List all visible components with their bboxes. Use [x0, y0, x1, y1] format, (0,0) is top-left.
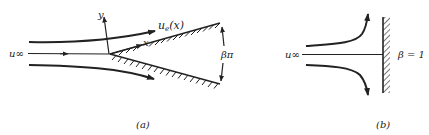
streamline-upper-a [29, 31, 155, 42]
beta-label: β = 1 [397, 49, 425, 60]
caption-a: (a) [136, 119, 150, 130]
wedge-angle-label: βπ [220, 49, 234, 60]
x-axis-label: x [143, 37, 149, 48]
y-axis-arrow [104, 17, 109, 54]
angle-arrow-down [221, 63, 223, 81]
wedge-flow-diagram: u∞ [0, 0, 429, 135]
y-axis-label: y [97, 9, 104, 20]
edge-velocity-label: ue(x) [158, 19, 184, 33]
panel-b: u∞ β = 1 (b) [285, 14, 425, 130]
streamline-lower-a [29, 65, 154, 79]
wedge-lower-surface [110, 54, 220, 84]
panel-a: u∞ [9, 9, 234, 130]
wall-hatching [383, 17, 390, 93]
freestream-label-a: u∞ [9, 48, 24, 59]
streamline-upper-b [306, 14, 368, 46]
streamline-lower-b [306, 65, 368, 95]
stagnation-streamline-a [28, 54, 110, 55]
freestream-label-b: u∞ [285, 49, 300, 60]
caption-b: (b) [376, 119, 390, 130]
angle-arrow-up [222, 27, 224, 46]
